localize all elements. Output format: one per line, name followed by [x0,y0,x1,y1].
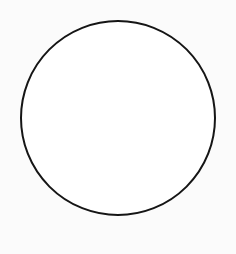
circle-shape [21,21,215,215]
diagram-svg [0,0,236,254]
diagram-canvas [0,0,236,254]
